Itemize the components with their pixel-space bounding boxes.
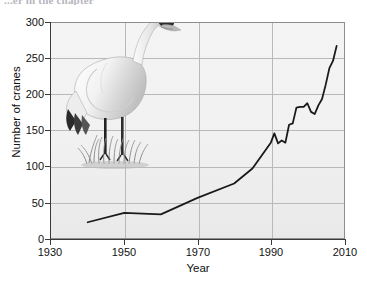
x-tick-1990 xyxy=(271,240,272,245)
x-tick-2010 xyxy=(345,240,346,245)
y-tick-label-0: 0 xyxy=(2,234,44,245)
x-tick-1950 xyxy=(124,240,125,245)
y-tick-label-150: 150 xyxy=(2,125,44,136)
y-tick-label-100: 100 xyxy=(2,161,44,172)
x-tick-label-1970: 1970 xyxy=(175,246,221,258)
y-axis-title: Number of cranes xyxy=(10,47,22,177)
x-tick-label-1990: 1990 xyxy=(248,246,294,258)
y-tick-label-200: 200 xyxy=(2,89,44,100)
y-tick-50 xyxy=(45,203,51,204)
y-tick-300 xyxy=(45,22,51,23)
x-tick-1930 xyxy=(50,240,51,245)
y-tick-100 xyxy=(45,166,51,167)
y-tick-250 xyxy=(45,58,51,59)
y-tick-label-50: 50 xyxy=(2,198,44,209)
y-tick-200 xyxy=(45,94,51,95)
x-tick-1970 xyxy=(198,240,199,245)
whooping-crane-population-chart: 300 250 200 150 100 50 0 1930 1950 1970 … xyxy=(0,0,367,281)
y-axis-line xyxy=(50,22,51,240)
population-data-line xyxy=(51,23,344,238)
y-tick-label-250: 250 xyxy=(2,53,44,64)
x-tick-label-2010: 2010 xyxy=(322,246,367,258)
x-tick-label-1930: 1930 xyxy=(27,246,73,258)
x-axis-title: Year xyxy=(50,262,346,274)
plot-area xyxy=(50,22,345,239)
y-tick-label-300: 300 xyxy=(2,17,44,28)
x-tick-label-1950: 1950 xyxy=(101,246,147,258)
y-tick-150 xyxy=(45,130,51,131)
